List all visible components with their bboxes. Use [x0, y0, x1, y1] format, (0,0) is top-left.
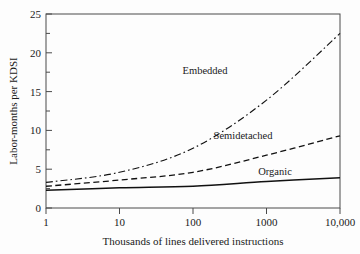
x-axis-ticks	[46, 208, 340, 214]
x-tick-label-100: 100	[185, 216, 202, 228]
y-axis-title: Labor-months per KDSI	[7, 57, 19, 165]
cocomo-effort-chart: 0 5 10 15 20 25 1 10 100 1000 10,000 Tho…	[0, 0, 360, 254]
x-axis-title: Thousands of lines delivered instruction…	[103, 235, 284, 247]
x-tick-label-10000: 10,000	[325, 216, 356, 228]
series-curve-organic	[46, 178, 340, 190]
series-label-embedded: Embedded	[183, 65, 229, 76]
y-tick-label-5: 5	[36, 163, 42, 175]
y-tick-label-10: 10	[30, 124, 42, 136]
x-tick-label-1000: 1000	[256, 216, 279, 228]
x-tick-label-1: 1	[43, 216, 49, 228]
series-curve-embedded	[46, 33, 340, 182]
series-label-semidetached: Semidetached	[214, 130, 274, 141]
series-label-organic: Organic	[258, 166, 292, 177]
y-tick-label-25: 25	[30, 8, 42, 20]
y-tick-label-15: 15	[30, 86, 42, 98]
y-tick-label-20: 20	[30, 47, 42, 59]
chart-figure: 0 5 10 15 20 25 1 10 100 1000 10,000 Tho…	[0, 0, 360, 254]
series-curve-semidetached	[46, 136, 340, 186]
x-tick-label-10: 10	[114, 216, 126, 228]
y-axis-minor-ticks	[46, 33, 50, 188]
plot-frame	[46, 14, 340, 208]
y-tick-label-0: 0	[36, 202, 42, 214]
